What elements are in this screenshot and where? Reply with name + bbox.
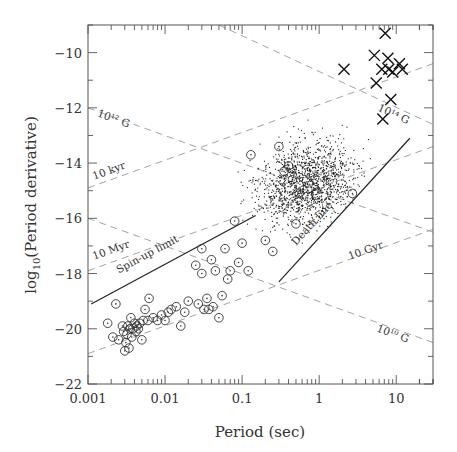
ppdot-diagram: 10¹² G10 kyr10 MyrSpin-up limitDeath lin… <box>0 0 457 452</box>
x-marker <box>387 66 398 77</box>
annotation-label: Death line <box>289 199 335 248</box>
x-marker <box>371 77 382 88</box>
y-tick-label: −20 <box>55 322 82 337</box>
x-marker <box>369 50 380 61</box>
plot-area: 10¹² G10 kyr10 MyrSpin-up limitDeath lin… <box>88 25 433 355</box>
y-tick-label: −10 <box>55 46 82 61</box>
y-axis-title: log10(Period derivative) <box>22 116 42 294</box>
svg-text:log10(Period derivative): log10(Period derivative) <box>22 116 42 294</box>
annotation-label: 10 kyr <box>91 158 128 181</box>
x-tick-label: 0.1 <box>232 391 253 406</box>
annotation-label: 10 Gyr <box>346 238 385 262</box>
x-tick-label: 0.01 <box>151 391 180 406</box>
y-tick-label: −16 <box>55 211 82 226</box>
y-axis-title-subscript: 10 <box>31 258 42 271</box>
x-tick-label: 1 <box>315 391 323 406</box>
y-axis-title-log: log <box>22 270 40 294</box>
x-marker <box>339 64 350 75</box>
x-tick-label: 10 <box>388 391 405 406</box>
x-axis-title: Period (sec) <box>215 423 305 441</box>
x-tick-label: 0.001 <box>69 391 106 406</box>
x-marker <box>383 64 394 75</box>
y-tick-label: −22 <box>55 377 82 392</box>
x-marker <box>397 64 408 75</box>
y-tick-label: −14 <box>55 156 82 171</box>
annotation-label: 10¹² G <box>96 107 132 130</box>
x-marker <box>382 53 393 64</box>
y-tick-label: −12 <box>55 101 82 116</box>
y-tick-label: −18 <box>55 267 82 282</box>
line-annotations: 10¹² G10 kyr10 MyrSpin-up limitDeath lin… <box>91 101 412 344</box>
annotation-label: 10¹⁰ G <box>375 322 411 345</box>
y-axis-title-rest: (Period derivative) <box>22 116 40 257</box>
annotation-label: 10¹⁴ G <box>376 101 411 126</box>
